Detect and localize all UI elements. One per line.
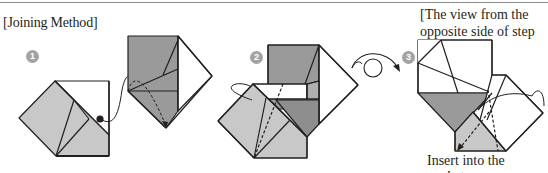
caption: Insert into the pocket. xyxy=(427,153,548,173)
step-1-left-unit xyxy=(19,75,140,156)
joining-diagram xyxy=(0,0,548,173)
step-1-right-unit xyxy=(128,36,212,128)
step-3-assembly xyxy=(418,40,544,151)
step-2-assembly xyxy=(218,45,362,158)
flip-over-arrow xyxy=(352,54,400,77)
